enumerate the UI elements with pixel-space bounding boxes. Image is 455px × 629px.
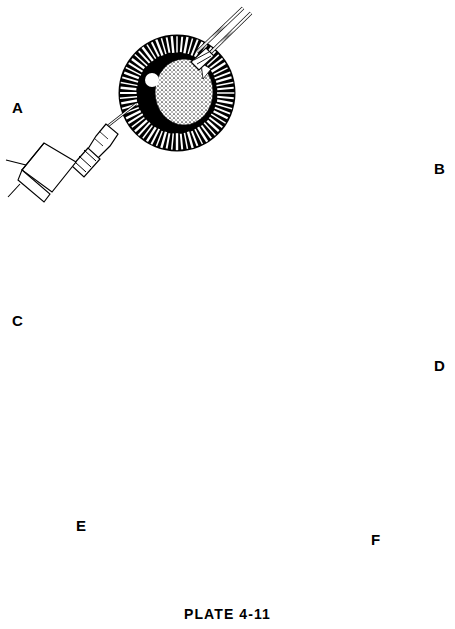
syringe-instrument-a xyxy=(6,104,136,202)
plate-figure: A B C D E F PLATE 4-11 xyxy=(0,0,455,629)
syringe-barrel-a xyxy=(6,143,76,202)
illustration-canvas xyxy=(0,0,455,629)
panel-label-c: C xyxy=(12,313,23,328)
panel-label-a: A xyxy=(12,100,23,115)
plate-caption: PLATE 4-11 xyxy=(0,606,455,622)
light-reflex-a xyxy=(145,73,159,87)
panel-label-e: E xyxy=(76,518,87,533)
panel-a-illustration xyxy=(6,8,251,202)
panel-label-b: B xyxy=(434,161,445,176)
panel-label-f: F xyxy=(371,532,381,547)
panel-label-d: D xyxy=(434,358,445,373)
eye-globe-a xyxy=(119,35,236,152)
